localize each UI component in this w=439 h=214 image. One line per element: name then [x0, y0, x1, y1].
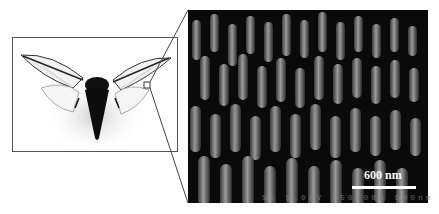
- zoom-connector-lines: [0, 0, 439, 214]
- inset-marker: [144, 82, 150, 88]
